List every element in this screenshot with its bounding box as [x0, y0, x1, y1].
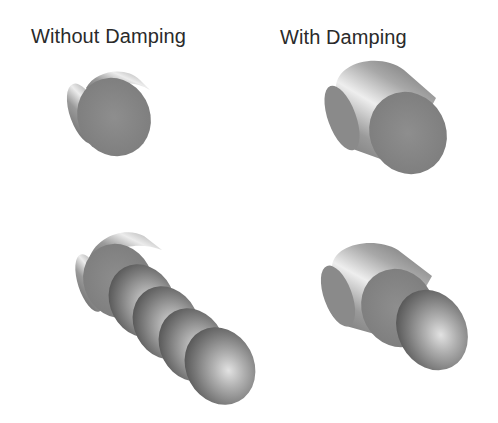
damping-diagram — [0, 0, 498, 423]
disc-with-bulges-without-damping — [69, 231, 268, 417]
cylinder-with-damping-initial — [317, 61, 461, 188]
disc-without-damping-initial — [60, 65, 165, 169]
cylinder-with-bulge-with-damping — [314, 243, 482, 383]
